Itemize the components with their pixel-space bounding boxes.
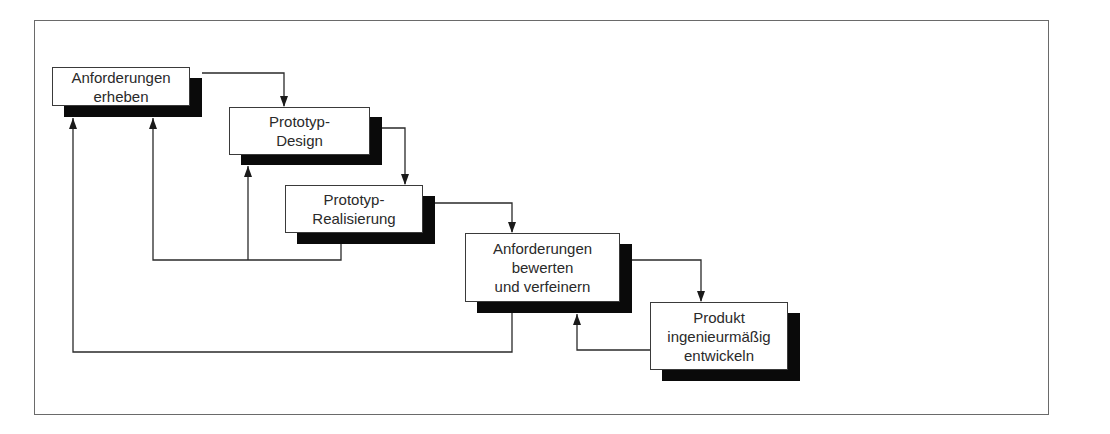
- arrowhead-up-icon: [244, 166, 252, 177]
- node-label-line: Realisierung: [312, 209, 395, 228]
- node-label-line: entwickeln: [684, 346, 754, 365]
- arrow-n1-to-n2: [202, 73, 284, 106]
- node-box: Anforderungen erheben: [52, 67, 190, 106]
- arrow-n2-to-n3: [382, 128, 405, 184]
- node-box: Produkt ingenieurmäßig entwickeln: [650, 302, 788, 370]
- arrowhead-up-icon: [69, 118, 77, 129]
- node-label-line: ingenieurmäßig: [667, 327, 770, 346]
- node-label-line: Prototyp-: [269, 112, 330, 131]
- node-label-line: Produkt: [693, 308, 745, 327]
- feedback-n5-to-n4: [577, 314, 650, 350]
- node-label-line: Prototyp-: [324, 190, 385, 209]
- node-box: Prototyp- Design: [229, 107, 370, 155]
- node-label-line: und verfeinern: [495, 277, 591, 296]
- node-box: Anforderungen bewerten und verfeinern: [465, 233, 620, 302]
- connector-layer: [0, 0, 1110, 434]
- arrowhead-down-icon: [401, 174, 409, 185]
- arrowhead-up-icon: [573, 314, 581, 325]
- arrow-n3-to-n4: [435, 203, 512, 232]
- arrowhead-up-icon: [149, 118, 157, 129]
- arrow-n4-to-n5: [632, 260, 701, 301]
- arrowhead-down-icon: [280, 96, 288, 107]
- node-label-line: Anforderungen: [71, 68, 170, 87]
- node-box: Prototyp- Realisierung: [285, 185, 423, 233]
- arrowhead-down-icon: [508, 222, 516, 233]
- arrowhead-down-icon: [697, 291, 705, 302]
- node-label-line: bewerten: [512, 258, 574, 277]
- node-label-line: Anforderungen: [493, 239, 592, 258]
- node-label-line: erheben: [93, 87, 148, 106]
- node-label-line: Design: [276, 131, 323, 150]
